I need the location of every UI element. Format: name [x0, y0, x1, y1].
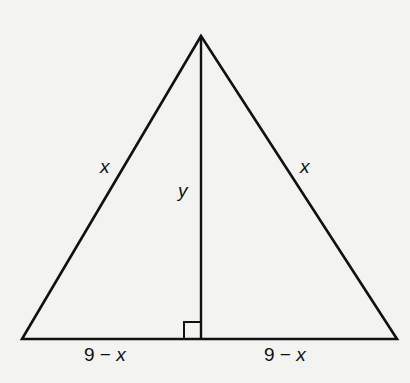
- altitude-label: y: [178, 181, 188, 200]
- base-right-label: 9 − x: [264, 345, 306, 364]
- base-right-number: 9: [264, 344, 275, 365]
- triangle-diagram: x x y 9 − x 9 − x: [0, 0, 410, 383]
- base-left-variable: x: [116, 344, 126, 365]
- base-left-number: 9: [84, 344, 95, 365]
- right-side-label: x: [300, 157, 310, 176]
- base-right-operator: −: [280, 344, 291, 365]
- base-right-variable: x: [296, 344, 306, 365]
- base-left-label: 9 − x: [84, 345, 126, 364]
- base-left-operator: −: [100, 344, 111, 365]
- triangle-figure: [0, 0, 410, 383]
- triangle-outline: [22, 36, 397, 339]
- right-angle-marker: [184, 322, 201, 339]
- left-side-label: x: [100, 157, 110, 176]
